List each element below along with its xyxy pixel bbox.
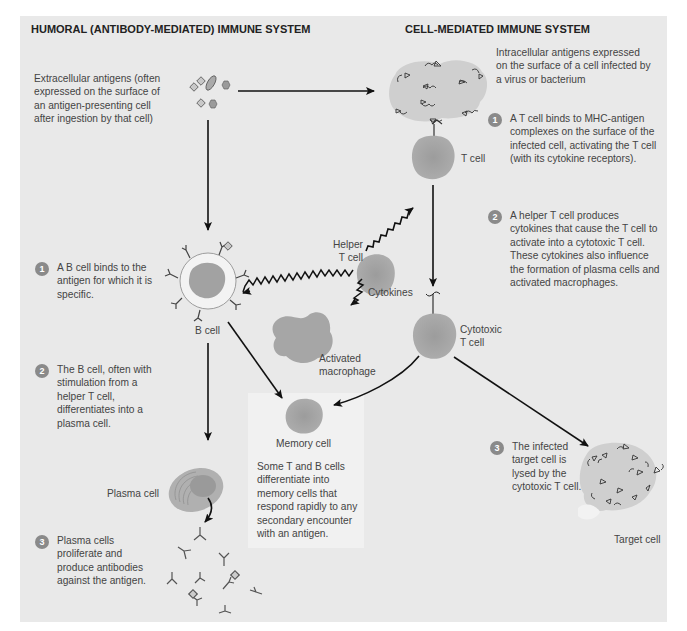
t-cell-label: T cell <box>461 152 485 165</box>
step-text: A B cell binds to the antigen for which … <box>57 261 170 301</box>
b-cell-label: B cell <box>195 324 220 337</box>
t-cell-icon <box>412 136 455 179</box>
cell-mediated-step-2: 2 A helper T cell produces cytokines tha… <box>488 209 663 289</box>
step-badge: 2 <box>35 364 49 378</box>
cell-mediated-step-1: 1 A T cell binds to MHC-antigen complexe… <box>488 112 663 166</box>
target-cell-label: Target cell <box>614 533 660 546</box>
b-cell-icon <box>165 242 249 321</box>
antibodies-icon <box>167 527 262 613</box>
infected-cell-icon <box>389 60 487 124</box>
cell-mediated-intro: Intracellular antigens expressed on the … <box>496 46 651 86</box>
step-badge: 1 <box>35 262 49 276</box>
helper-t-cell-label: Helper T cell <box>327 238 363 264</box>
plasma-cell-label: Plasma cell <box>107 487 159 500</box>
cell-mediated-step-3: 3 The infected target cell is lysed by t… <box>490 440 582 494</box>
step-text: A T cell binds to MHC-antigen complexes … <box>510 112 663 166</box>
memory-cell-label: Memory cell <box>276 437 331 450</box>
target-cell-icon <box>578 443 663 520</box>
cytokine-signal-to-t-cell <box>366 208 413 251</box>
plasma-cell-icon <box>163 461 230 520</box>
humoral-step-1: 1 A B cell binds to the antigen for whic… <box>35 261 170 301</box>
humoral-intro: Extracellular antigens (often expressed … <box>34 72 169 126</box>
step-badge: 3 <box>35 535 49 549</box>
memory-cell-icon <box>286 399 323 434</box>
memory-note: Some T and B cells differentiate into me… <box>257 460 359 540</box>
humoral-heading: HUMORAL (ANTIBODY-MEDIATED) IMMUNE SYSTE… <box>31 23 310 35</box>
step-badge: 2 <box>488 210 502 224</box>
step-badge: 3 <box>490 441 504 455</box>
step-text: The infected target cell is lysed by the… <box>512 440 582 494</box>
step-text: A helper T cell produces cytokines that … <box>510 209 663 289</box>
humoral-step-3: 3 Plasma cells proliferate and produce a… <box>35 534 160 588</box>
step-text: The B cell, often with stimulation from … <box>57 363 160 430</box>
humoral-step-2: 2 The B cell, often with stimulation fro… <box>35 363 160 430</box>
cell-mediated-heading: CELL-MEDIATED IMMUNE SYSTEM <box>405 23 590 35</box>
step-badge: 1 <box>488 113 502 127</box>
extracellular-antigens-icon <box>190 74 230 108</box>
cytokine-signal-to-b-cell <box>243 270 353 292</box>
activated-macrophage-label: Activated macrophage <box>319 352 389 378</box>
cytotoxic-t-cell-label: Cytotoxic T cell <box>460 323 510 349</box>
cytotoxic-t-cell-icon <box>413 313 456 358</box>
step-text: Plasma cells proliferate and produce ant… <box>57 534 160 588</box>
cytokines-label: Cytokines <box>368 286 413 299</box>
